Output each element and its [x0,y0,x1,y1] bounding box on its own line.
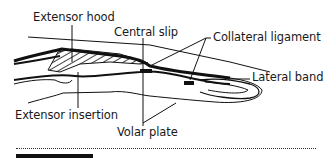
extensor-hood-region [48,49,148,72]
finger-anatomy-figure: Extensor hood Central slip Collateral li… [0,0,332,158]
leader-volar-plate [143,103,176,123]
label-lateral-band: Lateral band [252,72,323,84]
skin-volar-outline [28,92,215,103]
label-extensor-hood: Extensor hood [33,12,115,24]
pip-joint-marker [140,69,152,73]
dotted-divider [16,148,316,149]
section-marker-bar [16,154,93,158]
label-collateral-ligament: Collateral ligament [213,32,321,44]
leader-collateral-ligament-a [150,38,206,66]
label-central-slip: Central slip [114,27,178,39]
dip-joint-marker [184,81,194,85]
label-volar-plate: Volar plate [117,127,178,139]
label-extensor-insertion: Extensor insertion [15,110,118,122]
